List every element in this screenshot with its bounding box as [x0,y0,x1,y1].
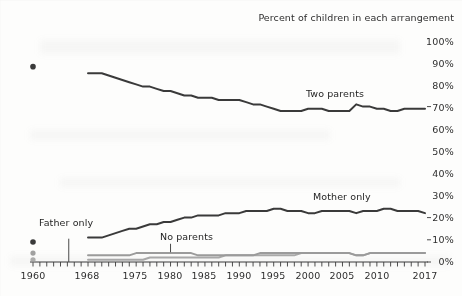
series-line-mother-only [88,209,425,238]
marker-1960-no-parents [30,251,35,256]
chart-plot-area [0,0,462,296]
marker-1960-mother-only [30,239,36,245]
chart-container: Percent of children in each arrangement … [0,0,462,296]
marker-1960-two-parents [30,64,36,70]
series-line-two-parents [88,73,425,111]
marker-1960-father-only [30,257,35,262]
